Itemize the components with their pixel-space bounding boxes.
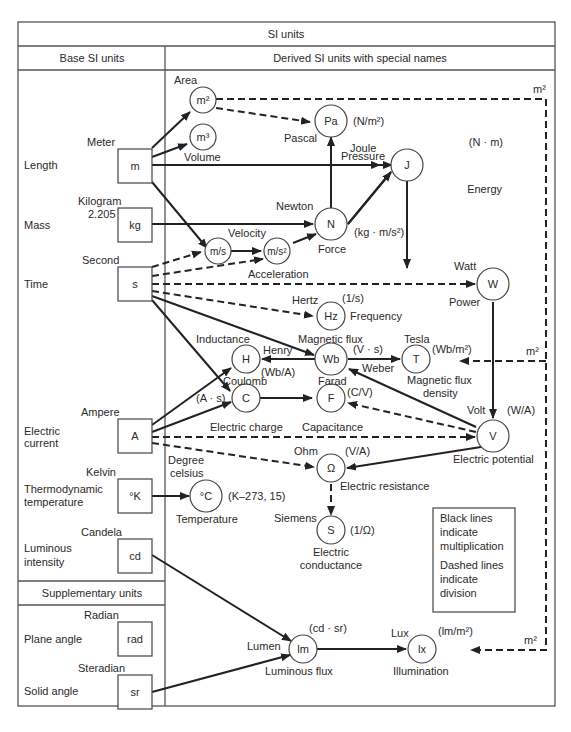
legend-text: multiplication	[440, 540, 504, 552]
m2-label-tesla: m²	[526, 345, 539, 357]
unit-symbol: rad	[127, 633, 143, 645]
legend-text: division	[440, 587, 477, 599]
unit-name: Weber	[362, 362, 395, 374]
quantity-label: Electric charge	[210, 421, 283, 433]
supplementary-header: Supplementary units	[42, 587, 143, 599]
unit-formula: (A · s)	[196, 392, 225, 404]
unit-symbol: C	[242, 392, 250, 404]
quantity-label: Time	[24, 278, 48, 290]
unit-name: Candela	[81, 526, 123, 538]
quantity-label: Luminous flux	[265, 665, 333, 677]
unit-symbol: °C	[200, 490, 212, 502]
node-tesla: T Tesla (Wb/m²) Magnetic flux density	[402, 333, 472, 399]
unit-formula: (Wb/m²)	[432, 343, 472, 355]
unit-symbol: m/s	[210, 246, 226, 257]
unit-formula: (K–273, 15)	[228, 490, 285, 502]
legend-text: Dashed lines	[440, 559, 504, 571]
node-celsius: Degree celsius °C (K–273, 15) Temperatur…	[168, 454, 285, 525]
derived-units-header: Derived SI units with special names	[273, 52, 447, 64]
unit-name: Newton	[276, 200, 313, 212]
unit-formula: (cd · sr)	[309, 622, 347, 634]
unit-formula: (1/Ω)	[350, 524, 375, 536]
unit-symbol: Hz	[324, 310, 337, 322]
unit-symbol: W	[488, 278, 499, 290]
unit-name: Ampere	[81, 406, 120, 418]
unit-symbol: lx	[418, 643, 426, 655]
quantity-label: Frequency	[350, 310, 402, 322]
quantity-label: Area	[174, 74, 198, 86]
unit-symbol: A	[131, 430, 139, 442]
title: SI units	[268, 28, 305, 40]
quantity-label: Mass	[24, 219, 51, 231]
unit-name: Kilogram	[78, 195, 121, 207]
unit-symbol: H	[242, 353, 250, 365]
unit-name: Joule	[350, 142, 376, 154]
quantity-label: Acceleration	[248, 268, 309, 280]
supplementary-unit-plane-angle: Plane angle Radian rad	[24, 609, 152, 656]
unit-name: Radian	[84, 609, 119, 621]
legend-text: Black lines	[440, 512, 493, 524]
unit-symbol: J	[404, 159, 410, 171]
unit-name: Watt	[454, 260, 476, 272]
unit-name: Tesla	[404, 333, 431, 345]
unit-symbol: m/s²	[267, 246, 287, 257]
quantity-label: temperature	[24, 496, 83, 508]
unit-formula: (V · s)	[353, 343, 383, 355]
node-velocity: m/s Velocity	[205, 227, 266, 264]
quantity-label: Velocity	[228, 227, 266, 239]
node-volume: m³ Volume	[184, 124, 221, 163]
si-units-diagram: SI units Base SI units Derived SI units …	[0, 0, 571, 732]
base-units-header: Base SI units	[60, 52, 125, 64]
quantity-label: Illumination	[393, 665, 449, 677]
base-unit-time: Time Second s	[24, 254, 152, 301]
unit-symbol: sr	[130, 686, 140, 698]
unit-extra: 2.205	[88, 208, 116, 220]
unit-name: Pascal	[284, 132, 317, 144]
unit-name: Lumen	[247, 640, 281, 652]
quantity-label: density	[423, 387, 458, 399]
m2-label-lux: m²	[524, 634, 537, 646]
base-unit-mass: Mass Kilogram 2.205 kg	[24, 195, 152, 242]
quantity-label: Luminous	[24, 542, 72, 554]
unit-symbol: T	[413, 353, 420, 365]
base-unit-electric-current: Electric current Ampere A	[24, 406, 152, 453]
unit-name: Kelvin	[86, 466, 116, 478]
unit-name: Volt	[467, 404, 485, 416]
quantity-label: Thermodynamic	[24, 483, 103, 495]
unit-name: celsius	[170, 467, 204, 479]
node-hertz: Hz Hertz (1/s) Frequency	[292, 292, 402, 330]
quantity-label: Electric	[313, 546, 350, 558]
node-ohm: Ω Ohm (V/A) Electric resistance	[294, 445, 429, 492]
unit-name: Steradian	[78, 662, 125, 674]
unit-name: Henry	[263, 344, 293, 356]
quantity-label: Volume	[184, 151, 221, 163]
unit-symbol: N	[327, 218, 335, 230]
node-watt: W Watt Power	[449, 260, 509, 308]
quantity-label: Magnetic flux	[407, 374, 472, 386]
unit-name: Hertz	[292, 294, 318, 306]
unit-name: Second	[82, 254, 119, 266]
node-newton: N Newton (kg · m/s²) Force	[276, 200, 404, 255]
unit-symbol: F	[328, 392, 335, 404]
unit-name: Lux	[391, 627, 409, 639]
unit-name: Ohm	[294, 445, 318, 457]
quantity-label: Inductance	[196, 333, 250, 345]
quantity-label: Solid angle	[24, 685, 78, 697]
node-acceleration: m/s² Acceleration	[248, 238, 309, 280]
node-area: Area m²	[174, 74, 216, 113]
unit-symbol: s	[132, 278, 138, 290]
quantity-label: Temperature	[176, 513, 238, 525]
unit-symbol: S	[327, 524, 334, 536]
unit-name: Meter	[87, 136, 115, 148]
quantity-label: intensity	[24, 556, 65, 568]
base-unit-luminous-intensity: Luminous intensity Candela cd	[24, 526, 152, 573]
unit-formula: (N · m)	[469, 136, 503, 148]
node-volt: V Volt (W/A) Electric potential	[453, 404, 535, 465]
unit-formula: (V/A)	[345, 445, 370, 457]
unit-formula: (kg · m/s²)	[354, 226, 404, 238]
node-siemens: S Siemens (1/Ω) Electric conductance	[274, 512, 375, 571]
legend: Black lines indicate multiplication Dash…	[433, 508, 515, 612]
base-unit-temperature: Thermodynamic temperature Kelvin °K	[24, 466, 152, 513]
legend-text: indicate	[440, 526, 478, 538]
unit-symbol: Pa	[324, 115, 338, 127]
